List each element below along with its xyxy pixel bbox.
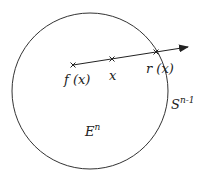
sphere-label-base: S xyxy=(171,97,180,112)
label-x: x xyxy=(109,69,116,82)
disk-boundary-circle xyxy=(12,13,168,169)
label-f-x: f (x) xyxy=(64,73,90,86)
sphere-label-sup: n-1 xyxy=(180,95,195,105)
disk-label-base: E xyxy=(85,124,95,139)
label-r-x: r (x) xyxy=(146,62,174,75)
label-disk-en: En xyxy=(85,123,100,138)
label-sphere-sn-1: Sn-1 xyxy=(171,96,194,111)
diagram-canvas xyxy=(0,0,203,177)
retraction-diagram: f (x) x r (x) En Sn-1 xyxy=(0,0,203,177)
disk-label-sup: n xyxy=(95,122,101,132)
